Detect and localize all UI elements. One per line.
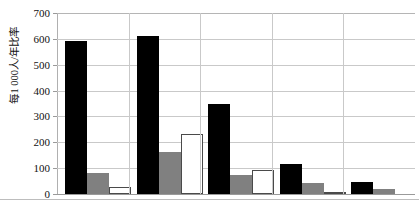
y-tick-label-300: 300	[34, 111, 51, 122]
bar	[373, 189, 395, 194]
bar-group	[272, 13, 344, 194]
figure-bottom-rule	[0, 199, 419, 200]
bar	[159, 152, 181, 194]
y-tick-0	[53, 194, 57, 195]
bar	[65, 41, 87, 194]
bar-group	[200, 13, 272, 194]
bar	[302, 183, 324, 194]
gridline-0	[57, 194, 415, 195]
y-tick-label-200: 200	[34, 137, 51, 148]
bar	[137, 36, 159, 194]
bar	[87, 173, 109, 194]
y-tick-label-700: 700	[34, 8, 51, 19]
bar	[230, 175, 252, 194]
bar	[280, 164, 302, 194]
bar-group	[57, 13, 129, 194]
bar-group	[129, 13, 201, 194]
y-tick-label-500: 500	[34, 59, 51, 70]
bar	[208, 104, 230, 194]
bar-chart-figure: 每1 000人/年比率 0100200300400500600700	[0, 0, 419, 204]
y-tick-label-400: 400	[34, 85, 51, 96]
y-axis-tick-labels: 0100200300400500600700	[0, 0, 53, 204]
y-tick-label-100: 100	[34, 163, 51, 174]
y-tick-label-600: 600	[34, 33, 51, 44]
bar	[351, 182, 373, 194]
bar-group	[343, 13, 415, 194]
plot-area	[57, 13, 415, 194]
y-tick-label-0: 0	[45, 189, 51, 200]
